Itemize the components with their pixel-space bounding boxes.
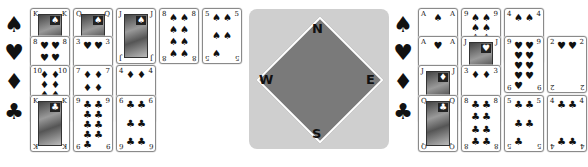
card-rank: 9	[76, 98, 80, 105]
card-rank: K	[62, 142, 67, 149]
diamonds-icon: ♦	[438, 73, 448, 82]
hearts-icon: ♥	[50, 53, 61, 63]
card-rank: 2	[550, 83, 554, 90]
clubs-icon: ♣	[93, 130, 104, 140]
diamonds-icon: ♦	[93, 83, 104, 93]
card-rank: A	[421, 11, 426, 18]
card-k-of-clubs[interactable]: KKKK♣	[30, 95, 70, 152]
card-rank: 9	[106, 142, 110, 149]
card-rank: 8	[192, 54, 196, 61]
card-rank: 9	[537, 39, 541, 46]
hearts-icon: ♥	[481, 44, 491, 53]
card-rank: 6	[119, 142, 123, 149]
spades-icon: ♠	[433, 13, 444, 23]
diamonds-icon: ♦	[481, 70, 492, 80]
card-8-of-clubs[interactable]: 8888♣♣♣♣♣♣♣♣	[461, 95, 501, 152]
spades-icon: ♠	[93, 16, 103, 25]
card-2-of-hearts[interactable]: 2222♥♥	[547, 36, 587, 93]
hearts-icon: ♥	[556, 41, 567, 51]
card-pips: ♣♣♣♣♣	[513, 100, 535, 147]
clubs-icon: ♣	[125, 100, 136, 110]
diamonds-icon: ♦	[82, 70, 93, 80]
card-rank: J	[421, 68, 424, 75]
card-rank: 5	[235, 11, 239, 18]
clubs-icon: ♣	[481, 112, 492, 122]
card-rank: J	[452, 68, 455, 75]
card-rank: 9	[464, 11, 468, 18]
card-rank: 5	[537, 142, 541, 149]
diamonds-icon: ♦	[136, 70, 147, 80]
card-rank: Q	[449, 98, 455, 105]
card-rank: 7	[76, 68, 80, 75]
card-9-of-hearts[interactable]: 9999♥♥♥♥♥♥♥♥♥	[504, 36, 544, 93]
diamonds-icon: ♦	[82, 83, 93, 93]
card-4-of-clubs[interactable]: 4444♣♣♣♣	[547, 95, 587, 152]
diamonds-icon: ♦	[470, 70, 481, 80]
card-rank: 4	[119, 68, 123, 75]
card-rank: 9	[106, 98, 110, 105]
card-rank: Q	[449, 142, 455, 149]
card-rank: 5	[205, 11, 209, 18]
spades-icon: ♠	[222, 31, 233, 41]
hearts-icon: ♥	[82, 41, 93, 51]
card-5-of-clubs[interactable]: 5555♣♣♣♣♣	[504, 95, 544, 152]
card-rank: 6	[119, 98, 123, 105]
spades-icon: ♠	[179, 37, 190, 47]
card-pips: ♣♣♣♣♣♣	[125, 100, 147, 147]
card-rank: 6	[149, 142, 153, 149]
clubs-icon: ♣	[136, 119, 147, 129]
spades-suit-icon: ♠	[4, 14, 24, 36]
card-rank: 3	[106, 39, 110, 46]
card-rank: A	[450, 11, 455, 18]
spades-icon: ♠	[524, 13, 535, 23]
card-rank: K	[62, 11, 67, 18]
clubs-icon: ♣	[470, 100, 481, 110]
card-rank: 4	[580, 98, 584, 105]
card-rank: 8	[464, 142, 468, 149]
card-pips: ♥♥	[556, 41, 578, 88]
card-rank: 4	[507, 11, 511, 18]
card-8-of-spades[interactable]: 8888♠♠♠♠♠♠♠♠	[159, 8, 199, 64]
hearts-icon: ♥	[93, 41, 104, 51]
card-q-of-clubs[interactable]: QQQQ♣	[418, 95, 458, 152]
card-rank: J	[150, 11, 153, 18]
card-rank: 5	[537, 98, 541, 105]
compass-south: S	[312, 126, 321, 141]
clubs-icon: ♣	[50, 103, 60, 112]
card-pips: ♣♣♣♣♣♣♣♣♣	[82, 100, 104, 147]
clubs-icon: ♣	[481, 100, 492, 110]
card-rank: 6	[149, 98, 153, 105]
card-5-of-spades[interactable]: 5555♠♠♠♠♠	[202, 8, 242, 64]
card-rank: J	[495, 39, 498, 46]
hearts-suit-icon: ♥	[4, 42, 24, 64]
spades-icon: ♠	[513, 13, 524, 23]
spades-icon: ♠	[211, 13, 222, 23]
card-6-of-clubs[interactable]: 6666♣♣♣♣♣♣	[116, 95, 156, 152]
hearts-icon: ♥	[567, 41, 578, 51]
card-rank: 3	[76, 39, 80, 46]
clubs-icon: ♣	[481, 125, 492, 135]
clubs-icon: ♣	[438, 103, 448, 112]
spades-icon: ♠	[168, 25, 179, 35]
card-9-of-clubs[interactable]: 9999♣♣♣♣♣♣♣♣♣	[73, 95, 113, 152]
hearts-icon: ♥	[524, 71, 535, 81]
card-rank: 4	[537, 11, 541, 18]
card-pips: ♣♣♣♣	[556, 100, 578, 147]
card-rank: A	[450, 39, 455, 46]
card-rank: 8	[464, 98, 468, 105]
spades-icon: ♠	[136, 16, 146, 25]
card-rank: 5	[507, 98, 511, 105]
clubs-icon: ♣	[82, 140, 93, 150]
clubs-icon: ♣	[125, 137, 136, 147]
spades-icon: ♠	[50, 16, 60, 25]
card-rank: 8	[33, 39, 37, 46]
hearts-icon: ♥	[50, 41, 61, 51]
card-j-of-spades[interactable]: JJJJ♠	[116, 8, 156, 64]
clubs-icon: ♣	[513, 119, 524, 129]
card-rank: Q	[104, 11, 110, 18]
spades-icon: ♠	[168, 49, 179, 59]
card-rank: 9	[494, 11, 498, 18]
compass-north: N	[312, 21, 323, 36]
spades-icon: ♠	[179, 49, 190, 59]
face-card-art: ♣	[426, 101, 450, 146]
